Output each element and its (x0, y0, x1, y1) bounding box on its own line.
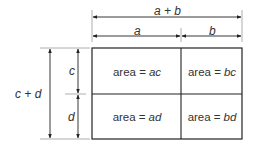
label-c-plus-d: c + d (15, 88, 41, 100)
label-b: b (209, 25, 216, 37)
label-a: a (134, 25, 141, 37)
label-a-plus-b: a + b (154, 5, 181, 17)
cell-prefix: area = (188, 66, 221, 78)
label-c: c (69, 65, 75, 77)
cell-variable: bd (224, 111, 237, 123)
cell-variable: bc (224, 66, 236, 78)
label-d: d (68, 111, 75, 123)
cell-area-ac: area = ac (93, 49, 181, 94)
cell-area-bc: area = bc (182, 49, 242, 94)
cell-area-bd: area = bd (182, 95, 242, 139)
cell-prefix: area = (113, 111, 146, 123)
cell-variable: ac (149, 66, 161, 78)
cell-area-ad: area = ad (93, 95, 181, 139)
cell-prefix: area = (113, 66, 146, 78)
cell-prefix: area = (188, 111, 221, 123)
left-extension-lines (40, 48, 90, 139)
cell-variable: ad (149, 111, 162, 123)
